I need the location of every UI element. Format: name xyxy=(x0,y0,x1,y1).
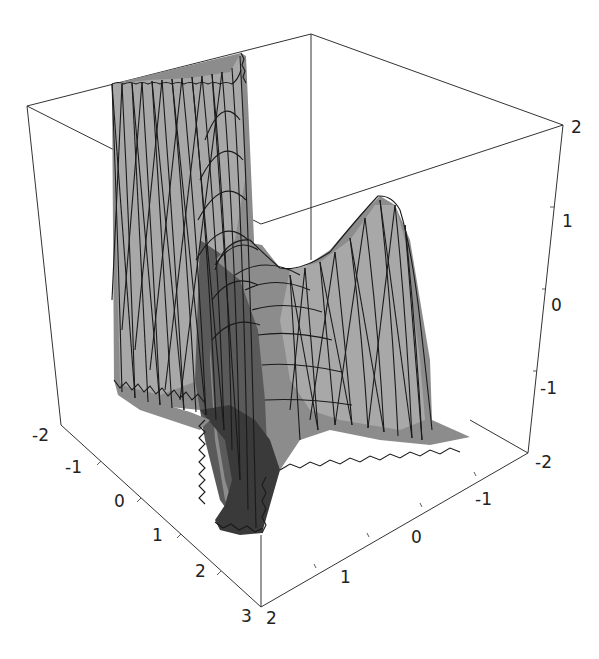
surface-plot: -2 -1 0 1 2 3 2 1 0 -1 -2 2 1 0 -1 xyxy=(0,0,599,659)
y-tick-label: 1 xyxy=(340,567,351,587)
z-tick-label: 1 xyxy=(562,211,573,231)
y-tick-label: -2 xyxy=(535,452,552,472)
y-tick-label: 2 xyxy=(266,608,277,628)
y-tick-label: 0 xyxy=(411,527,422,547)
x-tick-label: 2 xyxy=(195,561,206,581)
z-tick-label: 2 xyxy=(571,117,582,137)
z-tick-label: 0 xyxy=(551,295,562,315)
surface xyxy=(112,53,470,535)
y-axis: 2 1 0 -1 -2 xyxy=(266,452,552,628)
y-tick-label: -1 xyxy=(475,489,492,509)
z-tick-label: -1 xyxy=(540,378,557,398)
z-axis: 2 1 0 -1 xyxy=(533,117,582,398)
x-tick-label: 3 xyxy=(241,606,252,626)
x-tick-label: -2 xyxy=(32,425,49,445)
x-tick-label: 0 xyxy=(114,491,125,511)
x-tick-label: 1 xyxy=(152,525,163,545)
x-tick-label: -1 xyxy=(65,457,82,477)
